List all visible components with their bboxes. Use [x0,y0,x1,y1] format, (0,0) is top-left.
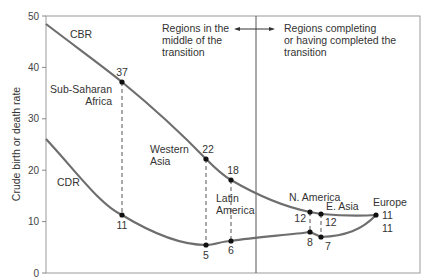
annotation-left-2: middle of the [162,34,222,46]
double-arrow-icon [234,27,275,31]
y-axis-label: Crude birth or death rate [10,87,22,202]
cdr-label: CDR [57,176,80,188]
value-la-cbr: 18 [227,164,239,176]
value-wa-cdr: 5 [203,249,209,261]
region-label-wa-1: Western [150,143,189,155]
value-na-cbr: 12 [294,212,306,224]
value-la-cdr: 6 [228,244,234,256]
region-label-la-1: Latin [216,192,239,204]
plot-frame [46,16,420,273]
region-label-ssa-2: Africa [85,95,112,107]
value-ssa-cdr: 11 [117,219,128,231]
value-eu-cbr: 11 [382,209,393,221]
value-ea-cbr: 12 [325,216,337,228]
y-tick-30: 30 [28,113,40,124]
value-wa-cbr: 22 [202,143,214,155]
value-eu-cdr: 11 [382,222,393,234]
annotation-right-2: or having completed the [284,34,396,46]
y-axis [42,16,46,273]
value-ssa-cbr: 37 [116,66,128,78]
region-label-wa-2: Asia [150,155,171,167]
annotation-left-1: Regions in the [162,22,229,34]
value-ea-cdr: 7 [325,240,331,252]
y-tick-20: 20 [28,165,40,176]
cbr-label: CBR [70,28,93,40]
annotation-right-3: transition [284,46,327,58]
value-na-cdr: 8 [307,236,313,248]
annotation-left-3: transition [162,46,205,58]
y-tick-50: 50 [28,11,40,22]
annotation-right-1: Regions completing [284,22,376,34]
demographic-transition-chart: 50 40 30 20 10 0 Crude birth or death ra… [0,0,428,280]
y-tick-10: 10 [28,216,40,227]
region-label-eu: Europe [373,196,407,208]
region-label-ssa-1: Sub-Saharan [50,83,112,95]
region-label-la-2: America [216,204,255,216]
region-label-ea: E. Asia [326,200,359,212]
y-tick-0: 0 [33,268,39,279]
y-tick-40: 40 [28,62,40,73]
